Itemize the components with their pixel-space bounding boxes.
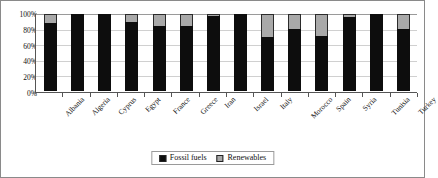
chart-legend: Fossil fuels Renewables — [151, 151, 274, 165]
x-axis-label-iran: Iran — [223, 95, 238, 110]
stacked-bar — [207, 14, 220, 91]
x-axis-label-syria: Syria — [360, 95, 378, 113]
stacked-bar — [153, 14, 166, 91]
bar-segment-fossil-fuels — [98, 14, 111, 91]
bar-segment-renewables — [153, 14, 166, 26]
bar-group-egypt — [118, 14, 145, 91]
stacked-bar — [71, 14, 84, 91]
bar-segment-renewables — [125, 14, 138, 22]
bar-series-container — [37, 14, 417, 91]
x-axis-label-israel: Israel — [252, 95, 270, 113]
x-axis-label-morocco: Morocco — [309, 95, 335, 121]
stacked-bar — [343, 14, 356, 91]
x-axis-label-egypt: Egypt — [143, 95, 162, 114]
bar-segment-fossil-fuels — [44, 23, 57, 91]
bar-segment-fossil-fuels — [261, 37, 274, 91]
bar-group-italy — [254, 14, 281, 91]
bar-segment-fossil-fuels — [315, 36, 328, 91]
bar-segment-fossil-fuels — [397, 29, 410, 91]
bar-group-france — [146, 14, 173, 91]
legend-label-renewables: Renewables — [228, 154, 267, 162]
stacked-bar — [234, 14, 247, 91]
stacked-bar — [261, 14, 274, 91]
x-axis-label-france: France — [171, 95, 192, 116]
bar-segment-renewables — [180, 14, 193, 26]
bar-group-greece — [173, 14, 200, 91]
bar-segment-fossil-fuels — [234, 14, 247, 91]
legend-label-fossil-fuels: Fossil fuels — [170, 154, 207, 162]
legend-item-renewables: Renewables — [217, 154, 267, 162]
bar-group-spain — [308, 14, 335, 91]
x-axis-label-spain: Spain — [334, 95, 352, 113]
bar-segment-renewables — [315, 14, 328, 36]
bar-group-algeria — [64, 14, 91, 91]
stacked-bar — [98, 14, 111, 91]
bar-group-israel — [227, 14, 254, 91]
stacked-bar — [315, 14, 328, 91]
bar-segment-renewables — [288, 14, 301, 29]
x-axis-label-cyprus: Cyprus — [117, 95, 139, 117]
bar-group-cyprus — [91, 14, 118, 91]
bar-segment-fossil-fuels — [207, 16, 220, 91]
bar-group-syria — [336, 14, 363, 91]
stacked-bar — [370, 14, 383, 91]
x-axis-label-greece: Greece — [198, 95, 219, 116]
bar-group-morocco — [281, 14, 308, 91]
bar-segment-fossil-fuels — [180, 26, 193, 91]
bar-segment-renewables — [44, 14, 57, 23]
x-axis-label-albania: Albania — [63, 95, 86, 118]
plot-area — [35, 14, 417, 93]
x-tick-mark-turkey — [417, 93, 418, 97]
plot-background — [35, 14, 417, 93]
gray-square-icon — [217, 155, 224, 162]
bar-segment-fossil-fuels — [71, 14, 84, 91]
bar-group-turkey — [390, 14, 417, 91]
bar-group-albania — [37, 14, 64, 91]
stacked-bar — [44, 14, 57, 91]
x-axis-label-algeria: Algeria — [90, 95, 112, 117]
bar-segment-fossil-fuels — [370, 14, 383, 91]
x-axis-label-tunisia: Tunisia — [390, 95, 412, 117]
stacked-bar — [288, 14, 301, 91]
stacked-bar — [125, 14, 138, 91]
x-axis-label-turkey: Turkey — [417, 95, 438, 117]
bar-group-tunisia — [363, 14, 390, 91]
x-axis-labels: AlbaniaAlgeriaCyprusEgyptFranceGreeceIra… — [35, 95, 417, 141]
bar-segment-fossil-fuels — [288, 29, 301, 91]
bar-segment-renewables — [397, 14, 410, 29]
bar-group-iran — [200, 14, 227, 91]
stacked-bar — [397, 14, 410, 91]
bar-segment-fossil-fuels — [153, 26, 166, 91]
legend-item-fossil-fuels: Fossil fuels — [159, 154, 207, 162]
bar-segment-fossil-fuels — [125, 22, 138, 91]
stacked-bar — [180, 14, 193, 91]
black-square-icon — [159, 155, 166, 162]
bar-segment-renewables — [261, 14, 274, 37]
x-axis-label-italy: Italy — [278, 95, 294, 111]
bar-segment-fossil-fuels — [343, 17, 356, 91]
